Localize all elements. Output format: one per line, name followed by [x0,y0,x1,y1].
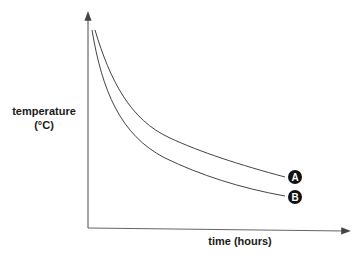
svg-text:A: A [291,172,298,183]
label-a-badge: A [288,170,302,184]
y-axis-label-line1: temperature [6,104,82,118]
y-axis-label: temperature (°C) [6,104,82,132]
curve-a [95,30,285,177]
y-axis-label-line2: (°C) [6,118,82,132]
curve-b [92,30,285,196]
x-axis [88,228,346,231]
svg-text:B: B [291,192,298,203]
label-b-badge: B [288,190,302,204]
x-axis-label: time (hours) [180,235,300,247]
